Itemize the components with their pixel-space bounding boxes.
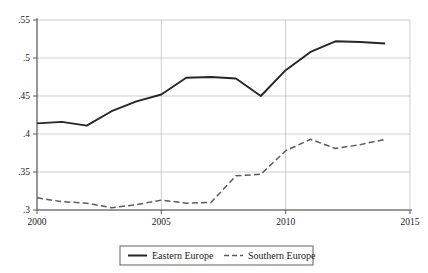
chart-canvas: .3.35.4.45.5.55 2000200520102015 Eastern… [0, 0, 428, 273]
gridlines [37, 20, 410, 210]
x-tick-label-2: 2010 [276, 217, 295, 227]
y-tick-label-2: .4 [23, 129, 30, 139]
x-axis-tick-labels: 2000200520102015 [28, 217, 420, 227]
y-tick-label-5: .55 [18, 15, 30, 25]
axis-ticks [33, 20, 410, 214]
series-line-southern-europe [37, 139, 385, 207]
legend-label-eastern-europe: Eastern Europe [152, 250, 214, 261]
x-tick-label-1: 2005 [152, 217, 171, 227]
series-line-eastern-europe [37, 41, 385, 125]
line-chart: .3.35.4.45.5.55 2000200520102015 Eastern… [0, 0, 428, 273]
y-tick-label-3: .45 [18, 91, 30, 101]
series-layer [37, 41, 385, 207]
legend-label-southern-europe: Southern Europe [248, 250, 316, 261]
x-tick-label-0: 2000 [28, 217, 47, 227]
y-axis-tick-labels: .3.35.4.45.5.55 [18, 15, 30, 215]
chart-legend: Eastern EuropeSouthern Europe [120, 246, 316, 265]
y-tick-label-4: .5 [23, 53, 30, 63]
y-tick-label-0: .3 [23, 205, 30, 215]
y-tick-label-1: .35 [18, 167, 30, 177]
x-tick-label-3: 2015 [401, 217, 420, 227]
